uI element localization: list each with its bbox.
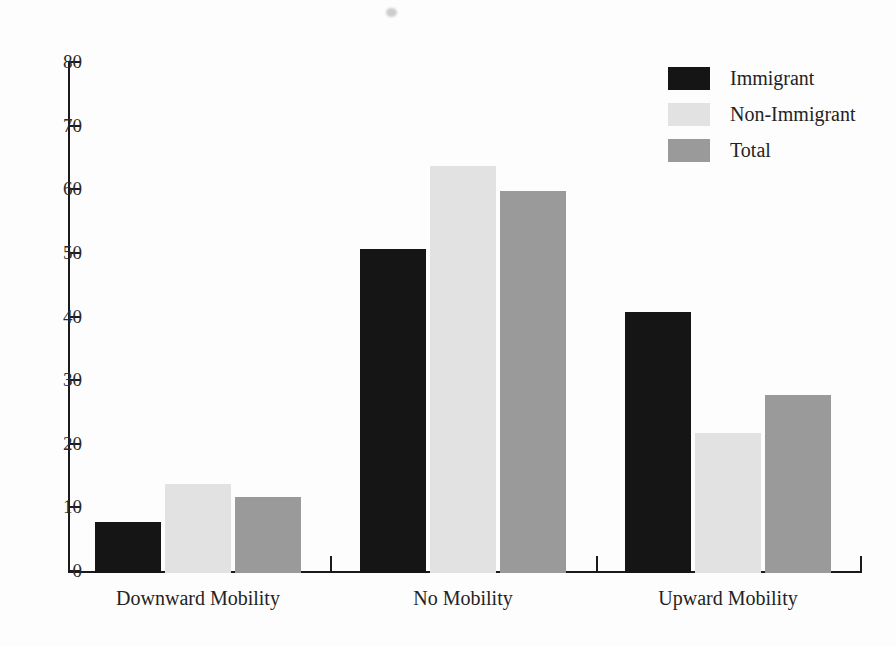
bar-total-downward-mobility bbox=[235, 497, 301, 573]
bar-non-immigrant-upward-mobility bbox=[695, 433, 761, 573]
y-axis-tick-label: 80 bbox=[46, 52, 82, 71]
bar-chart: 01020304050607080 Downward MobilityNo Mo… bbox=[0, 0, 896, 646]
x-axis-category-label: Downward Mobility bbox=[55, 588, 341, 608]
bar-immigrant-no-mobility bbox=[360, 249, 426, 573]
y-axis-tick-label: 30 bbox=[46, 370, 82, 389]
x-axis-tick bbox=[330, 556, 332, 572]
legend-label-total: Total bbox=[730, 140, 771, 160]
legend-item[interactable]: Non-Immigrant bbox=[668, 96, 888, 132]
y-axis-tick-label: 10 bbox=[46, 497, 82, 516]
x-axis-category-label: Upward Mobility bbox=[585, 588, 871, 608]
legend: Immigrant Non-Immigrant Total bbox=[668, 60, 888, 168]
y-axis-tick-label: 40 bbox=[46, 307, 82, 326]
y-axis-tick-label: 50 bbox=[46, 243, 82, 262]
bar-non-immigrant-no-mobility bbox=[430, 166, 496, 573]
bar-total-upward-mobility bbox=[765, 395, 831, 573]
bar-immigrant-downward-mobility bbox=[95, 522, 161, 573]
y-axis-tick-label: 70 bbox=[46, 116, 82, 135]
y-axis-tick-label: 20 bbox=[46, 434, 82, 453]
legend-label-non-immigrant: Non-Immigrant bbox=[730, 104, 856, 124]
legend-item[interactable]: Total bbox=[668, 132, 888, 168]
bar-immigrant-upward-mobility bbox=[625, 312, 691, 573]
legend-swatch-total bbox=[668, 139, 710, 162]
x-axis-tick bbox=[596, 556, 598, 572]
y-axis-tick-label: 60 bbox=[46, 179, 82, 198]
legend-swatch-immigrant bbox=[668, 67, 710, 90]
legend-label-immigrant: Immigrant bbox=[730, 68, 814, 88]
scan-artifact-smudge bbox=[386, 8, 397, 17]
legend-swatch-non-immigrant bbox=[668, 103, 710, 126]
x-axis-category-label: No Mobility bbox=[320, 588, 606, 608]
bar-total-no-mobility bbox=[500, 191, 566, 573]
bar-non-immigrant-downward-mobility bbox=[165, 484, 231, 573]
y-axis-tick-label: 0 bbox=[46, 561, 82, 580]
legend-item[interactable]: Immigrant bbox=[668, 60, 888, 96]
x-axis-tick bbox=[860, 556, 862, 572]
